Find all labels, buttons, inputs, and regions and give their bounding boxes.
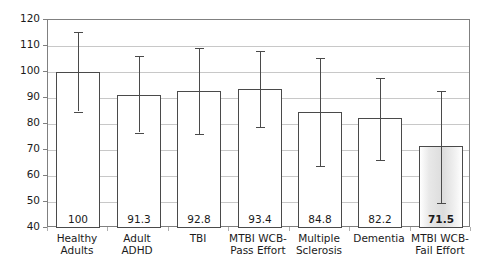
x-axis-category-label-5: Dementia: [349, 232, 409, 244]
x-axis-label-line-1: Dementia: [349, 232, 409, 244]
error-bar-cap-lower-5: [376, 160, 385, 161]
x-axis-label-line-2: Sclerosis: [289, 244, 349, 256]
x-axis-category-label-3: MTBI WCB-Pass Effort: [228, 232, 288, 256]
x-axis-label-line-2: Pass Effort: [228, 244, 288, 256]
y-axis-tick-label: 90: [6, 91, 40, 101]
bar-value-label: 92.8: [178, 214, 220, 225]
error-bar-cap-lower-1: [135, 133, 144, 134]
error-bar-cap-upper-1: [135, 56, 144, 57]
error-bar-cap-lower-0: [74, 112, 83, 113]
x-axis-tick-mark: [168, 227, 169, 231]
error-bar-cap-upper-5: [376, 78, 385, 79]
gridline: [48, 46, 469, 47]
bar-value-label: 71.5: [420, 214, 462, 225]
error-bar-cap-lower-2: [195, 134, 204, 135]
x-axis-label-line-1: TBI: [168, 232, 228, 244]
error-bar-cap-upper-4: [316, 58, 325, 59]
y-axis-tick-label: 60: [6, 169, 40, 179]
error-bar-stem-1: [139, 56, 140, 132]
x-axis-tick-mark: [289, 227, 290, 231]
x-axis-label-line-2: Fail Effort: [410, 244, 470, 256]
bar-value-label: 93.4: [239, 214, 281, 225]
x-axis-tick-mark: [470, 227, 471, 231]
error-bar-cap-upper-0: [74, 32, 83, 33]
x-axis-label-line-1: Multiple: [289, 232, 349, 244]
x-axis-category-label-2: TBI: [168, 232, 228, 244]
y-axis-tick-label: 100: [6, 65, 40, 75]
x-axis-category-label-0: HealthyAdults: [47, 232, 107, 256]
bar-value-label: 82.2: [359, 214, 401, 225]
x-axis-label-line-1: Adult ADHD: [107, 232, 167, 256]
x-axis-category-label-1: Adult ADHD: [107, 232, 167, 256]
error-bar-cap-upper-2: [195, 48, 204, 49]
x-axis-label-line-2: Adults: [47, 244, 107, 256]
y-axis-tick-label: 80: [6, 117, 40, 127]
error-bar-stem-2: [199, 48, 200, 135]
error-bar-cap-lower-3: [256, 127, 265, 128]
bar-value-label: 100: [57, 214, 99, 225]
plot-area: 10091.392.893.484.882.271.5: [47, 19, 470, 227]
bar-value-label: 91.3: [118, 214, 160, 225]
error-bar-stem-6: [441, 91, 442, 203]
x-axis-label-line-1: MTBI WCB-: [410, 232, 470, 244]
y-axis-tick-label: 120: [6, 13, 40, 23]
y-axis-tick-label: 110: [6, 39, 40, 49]
x-axis-tick-mark: [228, 227, 229, 231]
x-axis-category-label-4: MultipleSclerosis: [289, 232, 349, 256]
error-bar-stem-3: [260, 51, 261, 127]
error-bar-stem-5: [380, 78, 381, 160]
error-bar-cap-lower-6: [437, 203, 446, 204]
y-axis-tick-label: 50: [6, 195, 40, 205]
x-axis-tick-mark: [349, 227, 350, 231]
error-bar-cap-upper-6: [437, 91, 446, 92]
x-axis-tick-mark: [410, 227, 411, 231]
y-axis-tick-label: 70: [6, 143, 40, 153]
gridline: [48, 72, 469, 73]
bar-chart: 405060708090100110120 10091.392.893.484.…: [0, 0, 478, 272]
error-bar-stem-4: [320, 58, 321, 166]
x-axis-category-label-6: MTBI WCB-Fail Effort: [410, 232, 470, 256]
x-axis-label-line-1: Healthy: [47, 232, 107, 244]
x-axis-tick-mark: [47, 227, 48, 231]
error-bar-cap-lower-4: [316, 166, 325, 167]
bar-value-label: 84.8: [299, 214, 341, 225]
error-bar-stem-0: [78, 32, 79, 111]
x-axis-label-line-1: MTBI WCB-: [228, 232, 288, 244]
error-bar-cap-upper-3: [256, 51, 265, 52]
x-axis-tick-mark: [107, 227, 108, 231]
y-axis-tick-label: 40: [6, 221, 40, 231]
